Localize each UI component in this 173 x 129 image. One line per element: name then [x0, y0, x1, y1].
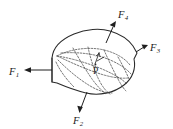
force-F2-arrowhead	[77, 106, 83, 113]
force-F3-group: F3	[136, 42, 161, 54]
force-F3-line	[136, 47, 144, 52]
force-F1-arrowhead	[24, 67, 31, 73]
force-F3-label: F3	[149, 42, 161, 54]
figure-canvas: P F1 F2 F3	[0, 0, 173, 129]
force-F2-label: F2	[72, 115, 84, 127]
force-F2-group: F2	[72, 92, 87, 127]
force-F3-arrowhead	[142, 45, 149, 50]
force-F1-label: F1	[8, 66, 19, 78]
force-F1-group: F1	[8, 66, 52, 78]
rigid-body-outline	[52, 29, 137, 94]
point-p-label: P	[93, 66, 98, 76]
force-F4-arrowhead	[110, 21, 116, 27]
force-F4-label: F4	[117, 9, 129, 21]
free-body-diagram-figure: P F1 F2 F3	[0, 0, 173, 129]
force-F2-line	[81, 92, 87, 108]
